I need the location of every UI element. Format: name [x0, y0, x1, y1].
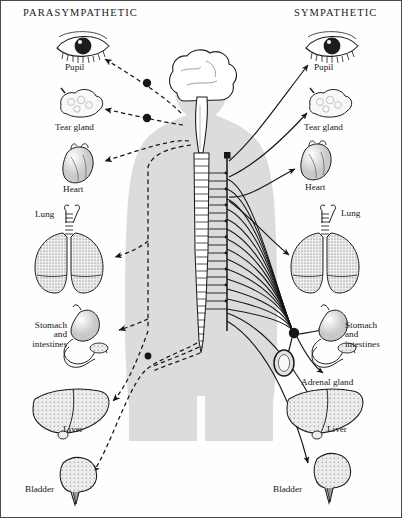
organ-bladder-left: [60, 457, 96, 505]
label-left-lung: Lung: [35, 210, 54, 219]
organ-heart-left: [63, 144, 93, 183]
label-right-bladder: Bladder: [273, 485, 302, 494]
label-right-heart: Heart: [305, 183, 325, 192]
sacral-ganglion: [145, 353, 152, 360]
label-left-stomach-intestines: Stomach and intestines: [1, 321, 67, 349]
pterygopalatine-ganglion: [143, 114, 151, 122]
organ-stomach-intestines-left: [64, 305, 108, 367]
collateral-ganglion: [289, 328, 299, 338]
organ-tear-gland-left: [61, 88, 103, 117]
label-right-tear-gland: Tear gland: [304, 123, 343, 132]
parasympathetic-path-pupil: [105, 59, 181, 113]
organ-tear-gland-right: [310, 88, 352, 117]
label-right-stomach-intestines: Stomach and intestines: [345, 321, 380, 349]
organ-heart-right: [301, 141, 331, 180]
ciliary-ganglion: [143, 79, 151, 87]
diagram-canvas: PARASYMPATHETIC SYMPATHETIC: [0, 0, 402, 518]
organ-bladder-right: [314, 453, 350, 503]
organ-pupil-right: [306, 32, 358, 63]
organ-adrenal-gland-right: [274, 350, 294, 376]
label-left-heart: Heart: [63, 185, 83, 194]
label-right-pupil: Pupil: [314, 63, 333, 72]
label-left-tear-gland: Tear gland: [55, 123, 94, 132]
label-right-adrenal-gland: Adrenal gland: [301, 378, 353, 387]
label-right-liver: Liver: [327, 425, 347, 434]
sympathetic-path-adrenal-b: [297, 337, 323, 373]
label-left-bladder: Bladder: [25, 485, 54, 494]
label-left-pupil: Pupil: [65, 63, 84, 72]
organ-pupil-left: [57, 32, 109, 63]
label-right-lung: Lung: [341, 209, 360, 218]
brain: [170, 50, 237, 101]
label-left-liver: Liver: [63, 425, 83, 434]
diagram-artwork: [1, 1, 402, 518]
